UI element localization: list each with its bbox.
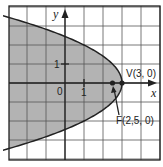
parabola-chart: y x 0 1 1 V(3, 0) F(2,5, 0) [0, 0, 163, 167]
vertex-label: V(3, 0) [126, 68, 156, 79]
origin-label: 0 [57, 86, 63, 97]
x-axis-label: x [150, 86, 157, 100]
y-tick-1-label: 1 [54, 59, 60, 70]
vertex-point [119, 80, 124, 85]
focus-point [110, 80, 115, 85]
x-tick-1-label: 1 [81, 87, 87, 98]
y-axis-arrow-icon [62, 9, 69, 18]
focus-label: F(2,5, 0) [116, 115, 154, 126]
y-axis-label: y [52, 7, 59, 21]
